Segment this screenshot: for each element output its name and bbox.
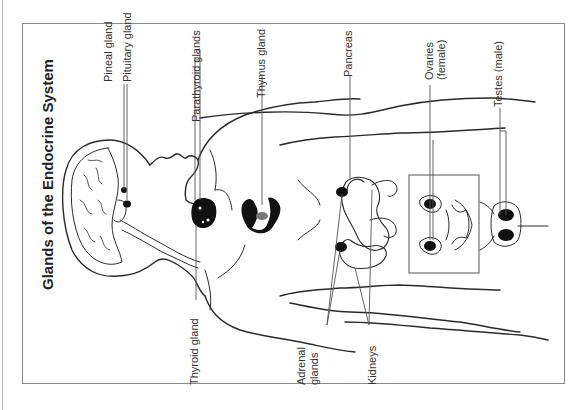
- uterus: [446, 200, 472, 250]
- hip-upper: [200, 98, 535, 118]
- hip-lower: [345, 322, 548, 340]
- label-parathyroid-glands: Parathyroid glands: [190, 30, 202, 122]
- adrenal-gland-lower: [335, 242, 347, 252]
- brain-outline: [71, 148, 122, 264]
- arm-lower-inner: [280, 285, 500, 296]
- testis-lower: [498, 229, 514, 241]
- shoulder-upper: [198, 99, 360, 160]
- spinal-cord: [120, 220, 200, 268]
- label-ovaries-line1: Ovaries: [423, 42, 435, 80]
- head-outline: [63, 140, 205, 296]
- label-adrenal-line1: Adrenal: [295, 347, 307, 385]
- kidney-upper: [347, 179, 364, 190]
- ovary-right: [424, 241, 436, 251]
- ovary-inset-box: [409, 175, 479, 273]
- face-profile: [150, 154, 200, 204]
- label-pancreas: Pancreas: [342, 31, 354, 77]
- thyroid-gland: [191, 198, 216, 228]
- label-thymus-gland: Thymus gland: [255, 29, 267, 98]
- label-pineal-gland: Pineal gland: [102, 21, 114, 82]
- diagram-title: Glands of the Endocrine System: [42, 59, 54, 290]
- label-thyroid-gland: Thyroid gland: [188, 318, 200, 385]
- kidney-lower: [340, 239, 387, 268]
- label-ovaries-line2: (female): [435, 40, 447, 80]
- label-adrenal-line2: glands: [308, 353, 320, 385]
- kidney-leader-1: [355, 268, 369, 325]
- kidney-leader-2: [369, 190, 372, 325]
- arm-lower-outer: [290, 303, 520, 332]
- thymus-center: [256, 212, 268, 220]
- pituitary-gland: [123, 201, 131, 208]
- arm-upper-inner: [280, 128, 505, 145]
- label-pituitary-gland: Pituitary gland: [121, 12, 133, 82]
- shoulder-lower: [205, 296, 355, 352]
- label-kidneys: Kidneys: [366, 346, 378, 385]
- adrenal-leader-1: [327, 194, 342, 325]
- label-testes: Testes (male): [492, 41, 504, 107]
